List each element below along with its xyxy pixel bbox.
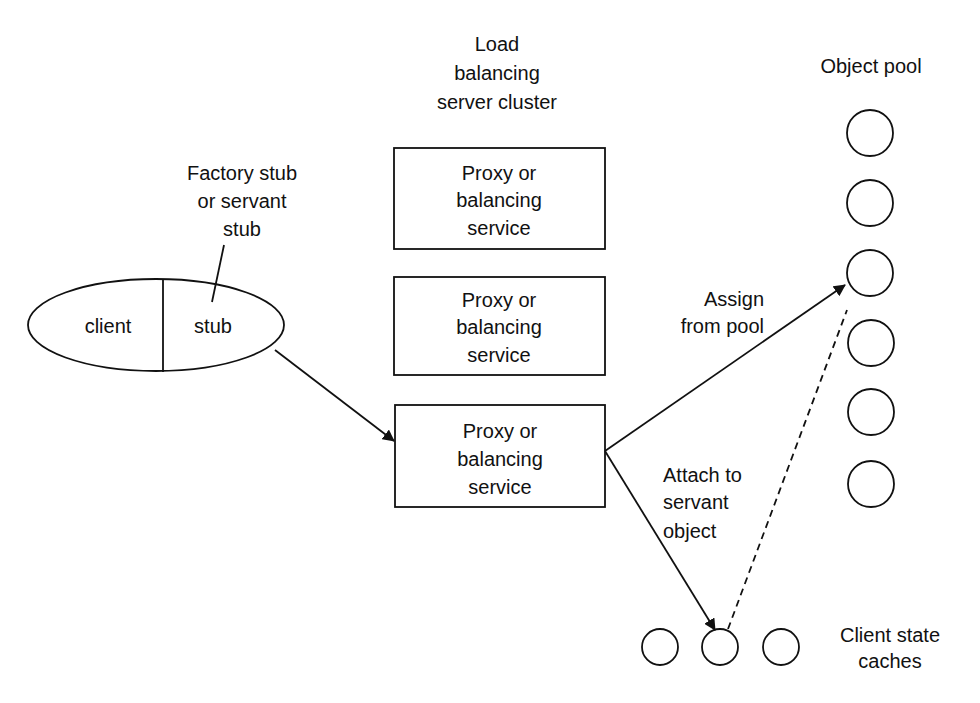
proxy-box-2: Proxy or balancing service (394, 277, 605, 375)
cache-2 (702, 629, 738, 665)
proxy-box-2-line-3: service (467, 344, 530, 366)
proxy-box-1-line-1: Proxy or (462, 162, 537, 184)
stub-note-line-1: Factory stub (187, 162, 297, 184)
proxy-box-3-line-2: balancing (457, 448, 543, 470)
proxy-box-2-line-2: balancing (456, 316, 542, 338)
assign-label: Assign from pool (681, 288, 764, 337)
proxy-box-1-line-3: service (467, 217, 530, 239)
cluster-heading-line-3: server cluster (437, 91, 557, 113)
pool-object-3 (847, 250, 893, 296)
object-pool-heading: Object pool (820, 55, 921, 77)
caches-label: Client state caches (840, 624, 940, 672)
cluster-heading: Load balancing server cluster (437, 33, 557, 113)
stub-label: stub (194, 315, 232, 337)
pool-object-4 (848, 320, 894, 366)
caches-label-line-2: caches (858, 650, 921, 672)
proxy-box-1-line-2: balancing (456, 189, 542, 211)
load-balancing-diagram: Load balancing server cluster Object poo… (0, 0, 980, 703)
pool-object-1 (847, 110, 893, 156)
cluster-heading-line-2: balancing (454, 62, 540, 84)
attach-label-line-2: servant (663, 491, 729, 513)
proxy-box-3-line-1: Proxy or (463, 420, 538, 442)
pool-object-6 (848, 461, 894, 507)
stub-note: Factory stub or servant stub (187, 162, 297, 240)
cache-to-pool-dashed-link (728, 310, 847, 629)
object-pool (847, 110, 894, 507)
cache-1 (642, 629, 678, 665)
assign-label-line-1: Assign (704, 288, 764, 310)
stub-note-line-2: or servant (198, 190, 287, 212)
stub-note-leader-line (212, 245, 224, 302)
client-state-caches (642, 629, 799, 665)
stub-note-line-3: stub (223, 218, 261, 240)
proxy-box-3-line-3: service (468, 476, 531, 498)
attach-label-line-3: object (663, 520, 717, 542)
proxy-box-1: Proxy or balancing service (394, 148, 605, 249)
pool-object-2 (847, 180, 893, 226)
attach-label-line-1: Attach to (663, 464, 742, 486)
cluster-heading-line-1: Load (475, 33, 520, 55)
client-ellipse (28, 279, 284, 371)
attach-label: Attach to servant object (663, 464, 742, 542)
proxy-box-3: Proxy or balancing service (395, 405, 605, 507)
pool-object-5 (848, 389, 894, 435)
client-label: client (85, 315, 132, 337)
caches-label-line-1: Client state (840, 624, 940, 646)
cache-3 (763, 629, 799, 665)
proxy-box-2-line-1: Proxy or (462, 289, 537, 311)
client-node: client stub (28, 279, 284, 372)
client-to-proxy-arrow (275, 350, 394, 441)
assign-label-line-2: from pool (681, 315, 764, 337)
